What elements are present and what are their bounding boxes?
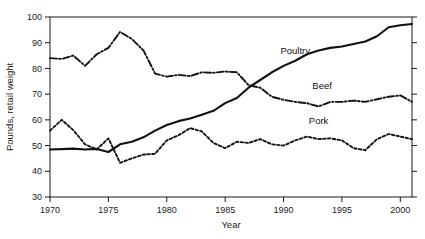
y-tick-label: 50: [32, 141, 42, 151]
y-tick-label: 90: [32, 38, 42, 48]
series-line-poultry: [50, 24, 412, 152]
y-axis-tick-labels: 30405060708090100: [27, 12, 42, 202]
line-chart: 30405060708090100 1970197519801985199019…: [0, 0, 425, 239]
y-axis-title: Pounds, retail weight: [4, 63, 15, 152]
series-label-poultry: Poultry: [280, 45, 310, 56]
chart-container: 30405060708090100 1970197519801985199019…: [0, 0, 425, 239]
y-tick-label: 30: [32, 192, 42, 202]
x-tick-label: 2000: [390, 205, 410, 215]
x-tick-label: 1990: [274, 205, 294, 215]
y-tick-label: 100: [27, 12, 42, 22]
x-tick-label: 1970: [40, 205, 60, 215]
x-axis-tick-labels: 1970197519801985199019952000: [40, 205, 410, 215]
series-label-beef: Beef: [312, 80, 332, 91]
y-tick-label: 60: [32, 115, 42, 125]
series-lines: [50, 24, 412, 163]
y-tick-label: 40: [32, 166, 42, 176]
series-annotations: PoultryBeefPork: [280, 45, 332, 125]
x-tick-label: 1995: [332, 205, 352, 215]
series-line-pork: [50, 120, 412, 163]
x-tick-label: 1975: [98, 205, 118, 215]
series-label-pork: Pork: [309, 115, 329, 126]
x-tick-label: 1980: [157, 205, 177, 215]
x-axis-title: Year: [221, 219, 240, 230]
y-axis-ticks: [45, 17, 417, 197]
x-axis-ticks: [50, 197, 400, 202]
y-tick-label: 80: [32, 64, 42, 74]
y-tick-label: 70: [32, 89, 42, 99]
x-tick-label: 1985: [215, 205, 235, 215]
